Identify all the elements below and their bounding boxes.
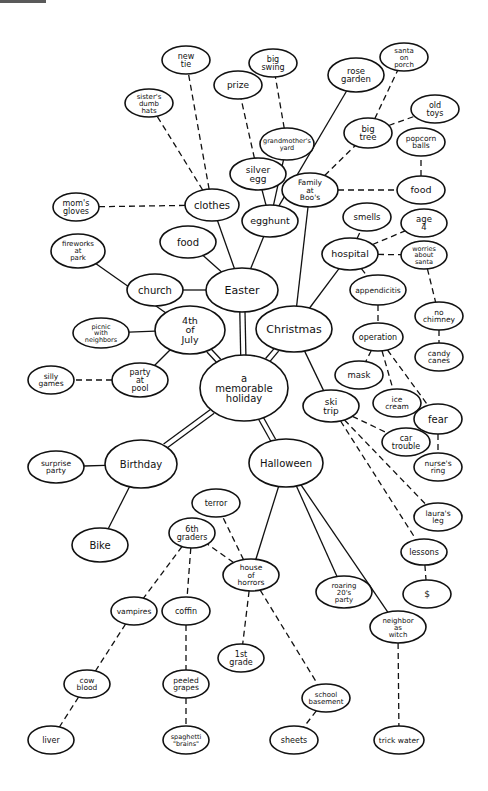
- edge-birthday-surprise-party: [84, 465, 105, 466]
- node-terror: terror: [192, 489, 240, 517]
- node-neighbor-witch: neighboraswitch: [370, 611, 426, 643]
- node-label: neighbors: [85, 336, 118, 344]
- node-sisters-hats: sister'sdumbhats: [125, 89, 173, 117]
- node-label: park: [70, 254, 87, 262]
- node-label: gloves: [63, 207, 89, 216]
- node-car-trouble: cartrouble: [382, 428, 430, 456]
- edge-lessons-money: [425, 565, 426, 580]
- node-age-4: age4: [401, 209, 447, 237]
- node-label: clothes: [194, 200, 230, 211]
- edge-operation-mask: [366, 351, 372, 362]
- edge-house-horrors-school-basement: [260, 590, 318, 685]
- node-easter: Easter: [206, 268, 278, 312]
- node-label: grapes: [173, 683, 199, 692]
- node-smells: smells: [343, 203, 391, 231]
- node-party-pool: partyatpool: [112, 363, 168, 397]
- edge-house-horrors-terror: [223, 517, 244, 560]
- node-nurses-ring: nurse'sring: [414, 453, 462, 481]
- node-label: tie: [181, 60, 191, 69]
- node-label: party: [335, 596, 354, 604]
- node-ice-cream: icecream: [373, 389, 421, 417]
- node-big-tree: bigtree: [344, 118, 392, 148]
- node-label: coffin: [175, 607, 197, 616]
- node-label: terror: [205, 499, 228, 508]
- node-label: horrors: [238, 578, 265, 587]
- node-old-toys: oldtoys: [411, 95, 459, 123]
- node-picnic-neighbors: picnicwithneighbors: [73, 318, 129, 348]
- node-label: sheets: [281, 736, 307, 745]
- node-label: mask: [348, 370, 371, 380]
- node-label: prize: [227, 80, 250, 90]
- node-liver: liver: [28, 726, 74, 754]
- node-label: santa: [415, 258, 433, 266]
- edge-hospital-smells: [357, 231, 361, 239]
- node-label: trouble: [392, 442, 421, 451]
- edge-christmas-hospital: [310, 269, 339, 308]
- edge-july4-party-pool: [155, 350, 171, 366]
- node-label: fear: [428, 414, 449, 425]
- node-popcorn-balls: popcornballs: [397, 128, 445, 156]
- node-no-chimney: nochimney: [415, 302, 463, 330]
- node-label: vampires: [117, 607, 152, 616]
- node-label: graders: [177, 533, 208, 542]
- node-label: games: [38, 379, 63, 388]
- node-label: Halloween: [260, 458, 312, 469]
- node-new-tie: newtie: [162, 46, 210, 74]
- node-label: party: [46, 466, 66, 475]
- node-label: Bike: [89, 540, 110, 551]
- edge-egghunt-silver-egg: [262, 190, 266, 205]
- node-label: garden: [341, 74, 371, 84]
- node-church: church: [127, 274, 183, 306]
- edge-christmas-ski-trip: [305, 351, 324, 391]
- node-rose-garden: rosegarden: [328, 58, 384, 92]
- edge-hospital-age-4: [373, 231, 406, 245]
- node-egghunt: egghunt: [242, 205, 298, 237]
- edge-root-birthday: [164, 409, 215, 448]
- edge-root-halloween: [259, 417, 276, 442]
- edge-easter-food-easter: [203, 256, 222, 272]
- node-label: Easter: [224, 284, 260, 297]
- node-july4: 4thofJuly: [155, 306, 225, 354]
- node-label: trip: [323, 406, 339, 416]
- node-candy-canes: candycanes: [415, 343, 463, 371]
- node-moms-gloves: mom'sgloves: [53, 193, 99, 221]
- node-clothes: clothes: [185, 189, 239, 221]
- node-peeled-grapes: peeledgrapes: [163, 670, 209, 698]
- edge-grandmothers-yard-big-swing: [275, 77, 284, 128]
- node-label: Boo's: [300, 193, 320, 202]
- node-label: lessons: [409, 548, 439, 557]
- node-label: pool: [131, 384, 148, 393]
- node-label: "brains": [173, 740, 199, 748]
- edge-clothes-moms-gloves: [99, 205, 185, 206]
- node-operation: operation: [353, 323, 403, 351]
- node-label: cream: [385, 402, 409, 411]
- node-worries-santa: worriesaboutsanta: [401, 241, 447, 269]
- node-label: hats: [141, 107, 156, 115]
- node-house-horrors: houseofhorrors: [223, 559, 279, 591]
- node-label: basement: [309, 698, 344, 706]
- node-silly-games: sillygames: [28, 366, 74, 394]
- node-appendicitis: appendicitis: [350, 275, 406, 305]
- node-money: $: [403, 580, 451, 608]
- edge-operation-ice-cream: [382, 351, 393, 389]
- node-label: holiday: [226, 393, 262, 404]
- node-big-swing: bigswing: [249, 49, 297, 77]
- edge-family-boos-big-tree: [325, 146, 355, 176]
- node-trick-water: trick water: [374, 726, 424, 754]
- node-label: hospital: [331, 248, 369, 259]
- edge-july4-picnic-neighbors: [129, 331, 155, 332]
- node-label: balls: [412, 141, 430, 150]
- node-family-boos: FamilyatBoo's: [282, 173, 338, 207]
- edge-neighbor-witch-trick-water: [398, 643, 399, 726]
- node-halloween: Halloween: [249, 439, 323, 487]
- node-label: swing: [261, 63, 284, 72]
- node-grandmothers-yard: grandmother'syard: [260, 128, 314, 160]
- edge-root-easter: [240, 312, 246, 355]
- edge-big-tree-old-toys: [389, 116, 415, 125]
- node-label: toys: [427, 109, 444, 118]
- node-label: canes: [428, 356, 450, 365]
- node-fear: fear: [414, 404, 462, 434]
- edge-halloween-roaring-20s: [296, 486, 337, 577]
- node-prize: prize: [214, 71, 262, 99]
- edge-cow-blood-liver: [59, 697, 78, 727]
